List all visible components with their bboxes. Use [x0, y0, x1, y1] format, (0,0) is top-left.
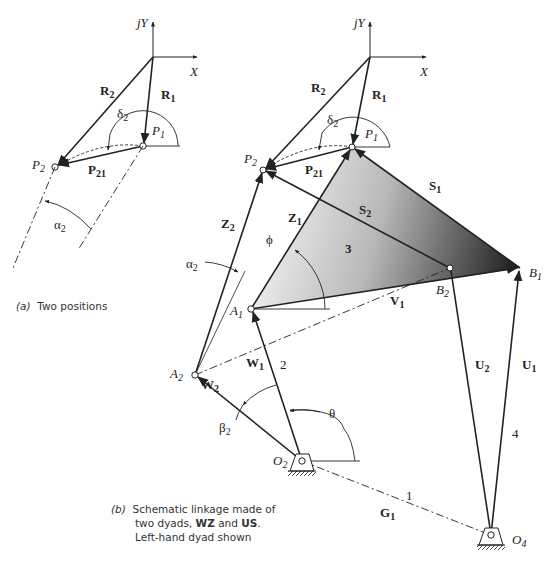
label-g1: G1 [380, 506, 395, 522]
vector-w1 [253, 312, 302, 461]
label-b1: B1 [529, 266, 542, 282]
joint-p2-b [260, 167, 266, 173]
label-w1: W1 [246, 356, 264, 372]
joint-p1-b [349, 144, 355, 150]
vector-u1 [491, 271, 519, 535]
joint-o4 [488, 532, 494, 538]
axis-x-label-b: X [420, 65, 428, 78]
figure-a [13, 22, 197, 268]
z2-direction-a [13, 167, 55, 268]
label-link-1: 1 [406, 489, 413, 502]
axis-y-label-b: jY [354, 16, 365, 29]
joint-a1 [248, 306, 254, 312]
label-a2: A2 [170, 367, 183, 383]
label-r2-b: R2 [311, 81, 325, 97]
label-link-3: 3 [345, 242, 352, 255]
label-p2-b: P2 [244, 152, 257, 168]
label-theta: θ [329, 407, 335, 420]
label-v1: V1 [390, 294, 404, 310]
beta2-arc [243, 385, 276, 405]
label-p21-a: P21 [88, 163, 106, 179]
label-beta2: β2 [219, 421, 231, 437]
label-p2-a: P2 [32, 158, 45, 174]
vector-g1 [302, 461, 488, 534]
label-o4: O4 [512, 533, 526, 549]
label-r1-a: R1 [161, 88, 175, 104]
caption-b: (b) Schematic linkage made of two dyads,… [111, 502, 275, 544]
axis-x-label-a: X [190, 65, 198, 78]
vector-z2 [195, 173, 262, 375]
joint-o2 [299, 458, 305, 464]
label-alpha2-b: α2 [186, 257, 198, 273]
label-z1: Z1 [288, 211, 302, 227]
label-s1: S1 [429, 179, 441, 195]
label-s2: S2 [359, 203, 371, 219]
label-r1-b: R1 [372, 88, 386, 104]
linkage-figure: jY X R2 R1 δ2 P1 P2 P21 α2 (a) Two posit… [0, 0, 558, 576]
label-r2-a: R2 [100, 84, 114, 100]
label-p1-b: P1 [365, 127, 378, 143]
caption-a: (a) Two positions [16, 299, 107, 313]
theta-arc [290, 410, 320, 412]
joint-a2 [192, 372, 198, 378]
vector-u2 [451, 271, 491, 535]
alpha2-arc-b [205, 262, 238, 272]
label-delta2-b: δ2 [327, 113, 338, 129]
label-phi: ϕ [266, 233, 273, 246]
figure-b [192, 22, 520, 550]
diagram-canvas [0, 0, 558, 576]
label-w2: W2 [201, 378, 219, 394]
label-link-2: 2 [280, 358, 287, 371]
label-delta2-a: δ2 [117, 107, 128, 123]
label-u2: U2 [475, 358, 489, 374]
label-u1: U1 [522, 358, 536, 374]
label-a1: A1 [230, 304, 243, 320]
label-link-4: 4 [512, 427, 519, 440]
joint-b2 [447, 265, 453, 271]
alpha2-arc-a [45, 201, 91, 229]
label-b2: B2 [436, 283, 449, 299]
label-o2: O2 [273, 454, 287, 470]
axis-y-label-a: jY [137, 16, 148, 29]
label-alpha2-a: α2 [54, 218, 66, 234]
label-p21-b: P21 [305, 163, 323, 179]
label-p1-a: P1 [152, 124, 165, 140]
alpha-ref-line [195, 271, 245, 375]
label-z2: Z2 [221, 217, 235, 233]
